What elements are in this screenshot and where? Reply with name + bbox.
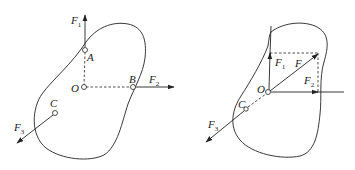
label-f2: F2 — [148, 73, 160, 88]
label-b: B — [129, 73, 136, 85]
label-f1-right: F1 — [274, 56, 286, 71]
f1-line-of-action — [270, 26, 271, 55]
label-c: C — [50, 97, 58, 109]
point-o — [82, 85, 87, 90]
label-a: A — [86, 51, 94, 63]
force-arrow-f1-right — [269, 53, 270, 90]
label-f1: F1 — [70, 14, 82, 29]
label-o: O — [71, 82, 79, 94]
label-f3-right: F3 — [207, 118, 219, 133]
label-f2-right: F2 — [303, 74, 315, 89]
dashed-line-oa — [84, 53, 85, 86]
point-o-right — [266, 90, 271, 95]
force-diagram: F1 A O B F2 C F3 — [0, 0, 355, 170]
label-f-resultant: F — [294, 57, 302, 69]
dashed-line-co — [248, 94, 266, 107]
right-figure: F1 F F2 O C F3 — [206, 23, 344, 157]
left-figure: F1 A O B F2 C F3 — [13, 14, 174, 159]
point-c — [53, 111, 58, 116]
rigid-body-outline — [34, 23, 145, 159]
label-f3: F3 — [13, 121, 25, 136]
label-o-right: O — [257, 83, 265, 95]
rigid-body-outline-right — [233, 23, 327, 157]
label-c-right: C — [238, 98, 246, 110]
point-b — [131, 85, 136, 90]
